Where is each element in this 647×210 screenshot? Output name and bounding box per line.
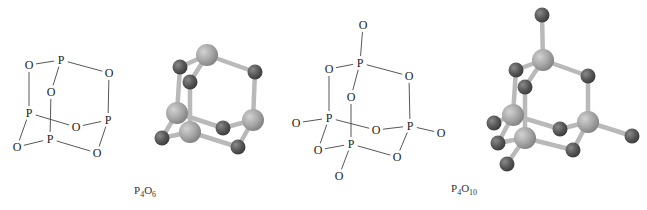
p4o10-formula-label: P4O10 — [451, 182, 477, 197]
p4o6-formula-label: P4O6 — [134, 184, 156, 199]
oxygen-atom-sphere — [231, 140, 246, 155]
oxygen-atom-label: O — [347, 90, 356, 104]
p4o6-ball-and-stick-model — [155, 44, 265, 155]
oxygen-atom-sphere — [248, 65, 263, 80]
oxygen-atom-sphere — [553, 122, 568, 137]
oxygen-atom-label: O — [314, 143, 323, 157]
bond-line — [99, 127, 106, 147]
oxygen-atom-sphere — [566, 143, 581, 158]
bond-line — [303, 119, 322, 122]
phosphorus-atom-label: P — [326, 111, 333, 125]
bond-line — [336, 64, 353, 67]
oxygen-atom-label: O — [93, 146, 102, 160]
p4o10-structural-formula: OPOOOPOOPOOPOO — [292, 18, 446, 183]
phosphorus-atom-sphere — [502, 104, 524, 126]
bond-line — [353, 70, 358, 90]
phosphorus-atom-label: P — [348, 137, 355, 151]
phosphorus-oxides-diagram: OPOOPOPOPO OPOOOPOOPOOPOO — [0, 0, 647, 210]
bond-line — [36, 115, 70, 125]
p4o10-ball-and-stick-model — [487, 8, 640, 172]
oxygen-atom-label: O — [13, 140, 22, 154]
formula-element: O — [144, 184, 152, 196]
formula-subscript: 6 — [152, 190, 156, 199]
bond-line — [400, 132, 408, 150]
phosphorus-atom-sphere — [242, 109, 264, 131]
phosphorus-atom-label: P — [407, 119, 414, 133]
bond-line — [358, 146, 391, 155]
oxygen-atom-label: O — [325, 62, 334, 76]
phosphorus-atom-label: P — [47, 132, 54, 146]
oxygen-atom-sphere — [155, 131, 170, 146]
bond-line — [417, 128, 434, 132]
oxygen-atom-sphere — [518, 80, 533, 95]
bond-line — [83, 121, 101, 125]
oxygen-atom-sphere — [500, 157, 515, 172]
phosphorus-atom-sphere — [577, 111, 599, 133]
oxygen-atom-label: O — [105, 66, 114, 80]
oxygen-atom-sphere — [491, 136, 506, 151]
oxygen-atom-label: O — [47, 85, 56, 99]
bond-line — [36, 61, 54, 64]
bond-line — [383, 127, 403, 129]
oxygen-atom-label: O — [335, 169, 344, 183]
oxygen-atom-sphere — [173, 60, 188, 75]
phosphorus-atom-label: P — [58, 53, 65, 67]
bond-line — [325, 145, 344, 148]
oxygen-atom-label: O — [393, 150, 402, 164]
bond-line — [19, 120, 26, 141]
oxygen-atom-sphere — [509, 63, 524, 78]
formula-element: O — [461, 182, 469, 194]
bond-line — [361, 32, 363, 56]
phosphorus-atom-sphere — [532, 49, 554, 71]
formula-subscript: 10 — [469, 188, 477, 197]
oxygen-atom-label: O — [405, 69, 414, 83]
phosphorus-atom-label: P — [105, 113, 112, 127]
oxygen-atom-sphere — [183, 75, 198, 90]
oxygen-atom-label: O — [359, 18, 368, 32]
phosphorus-atom-sphere — [166, 102, 188, 124]
bond-line — [24, 141, 43, 146]
p4o6-structural-formula: OPOOPOPOPO — [13, 53, 114, 160]
oxygen-atom-label: O — [292, 116, 301, 130]
phosphorus-atom-label: P — [26, 106, 33, 120]
oxygen-atom-label: O — [372, 123, 381, 137]
bond-line — [57, 141, 91, 151]
bond-line — [50, 99, 51, 132]
oxygen-atom-sphere — [535, 8, 550, 23]
oxygen-atom-sphere — [487, 116, 502, 131]
bond-line — [341, 151, 348, 170]
phosphorus-atom-sphere — [514, 127, 536, 149]
oxygen-atom-label: O — [72, 120, 81, 134]
oxygen-atom-sphere — [216, 121, 231, 136]
oxygen-atom-sphere — [581, 69, 596, 84]
phosphorus-atom-sphere — [179, 121, 201, 143]
bond-line — [320, 125, 326, 144]
oxygen-atom-label: O — [437, 126, 446, 140]
bond-line — [53, 67, 59, 86]
bond-line — [367, 65, 402, 74]
bond-line — [409, 83, 410, 119]
phosphorus-atom-label: P — [357, 56, 364, 70]
bond-line — [336, 120, 369, 129]
bond-line — [68, 62, 102, 71]
oxygen-atom-sphere — [625, 129, 640, 144]
bond-line — [108, 80, 109, 113]
phosphorus-atom-sphere — [196, 44, 218, 66]
oxygen-atom-label: O — [25, 58, 34, 72]
